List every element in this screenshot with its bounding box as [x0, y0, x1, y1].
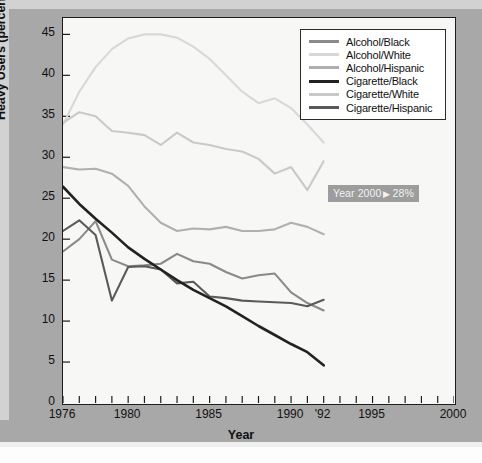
legend-item: Cigarette/White [307, 88, 439, 101]
legend-item: Alcohol/White [307, 48, 439, 61]
legend-swatch-icon [309, 93, 339, 96]
legend-item-label: Alcohol/Hispanic [346, 62, 424, 74]
legend-swatch-icon [309, 40, 339, 43]
y-axis-tick-label: 30 [21, 148, 55, 162]
y-axis-title: Heavy Users (percent) [0, 0, 8, 120]
x-axis-title: Year [0, 428, 482, 442]
legend-swatch-icon [309, 80, 339, 83]
legend-item: Alcohol/Hispanic [307, 61, 439, 74]
legend-item-label: Cigarette/Black [346, 75, 418, 87]
y-axis-tick-label: 15 [21, 271, 55, 285]
y-axis-tick-label: 40 [21, 66, 55, 80]
x-axis-tick-label: 1985 [179, 407, 239, 421]
annotation-callout: Year 2000▶28% [328, 185, 419, 202]
annotation-value: 28% [393, 187, 414, 199]
legend-item-label: Cigarette/Hispanic [346, 102, 432, 114]
y-axis-tick-label: 0 [21, 394, 55, 408]
series-line [63, 34, 324, 142]
scan-margin-bottom [0, 447, 482, 463]
legend-item-label: Cigarette/White [346, 88, 419, 100]
series-line [63, 112, 324, 190]
x-axis-tick-label: 1976 [32, 407, 92, 421]
scan-margin-top [0, 0, 482, 9]
legend-item-label: Alcohol/Black [346, 36, 409, 48]
y-axis-tick-label: 35 [21, 107, 55, 121]
y-axis-tick-label: 20 [21, 230, 55, 244]
legend-item: Cigarette/Hispanic [307, 101, 439, 114]
legend-swatch-icon [309, 66, 339, 69]
legend-swatch-icon [309, 53, 339, 56]
series-line [63, 187, 324, 366]
annotation-prefix: Year 2000 [333, 187, 381, 199]
y-axis-tick-label: 25 [21, 189, 55, 203]
chart-legend: Alcohol/BlackAlcohol/WhiteAlcohol/Hispan… [300, 29, 446, 120]
legend-swatch-icon [309, 106, 339, 109]
series-line [63, 221, 324, 310]
y-axis-tick-label: 10 [21, 312, 55, 326]
chart-figure: Heavy Users (percent) Year 0510152025303… [0, 0, 482, 463]
legend-item-label: Alcohol/White [346, 49, 411, 61]
series-line [63, 220, 324, 306]
legend-item: Cigarette/Black [307, 75, 439, 88]
annotation-arrow-icon: ▶ [381, 189, 392, 199]
x-axis-tick-label: 1995 [342, 407, 402, 421]
x-axis-tick-label: 2000 [423, 407, 482, 421]
x-axis-tick-label: 1980 [97, 407, 157, 421]
legend-item: Alcohol/Black [307, 35, 439, 48]
y-axis-tick-label: 45 [21, 25, 55, 39]
y-axis-tick-label: 5 [21, 353, 55, 367]
